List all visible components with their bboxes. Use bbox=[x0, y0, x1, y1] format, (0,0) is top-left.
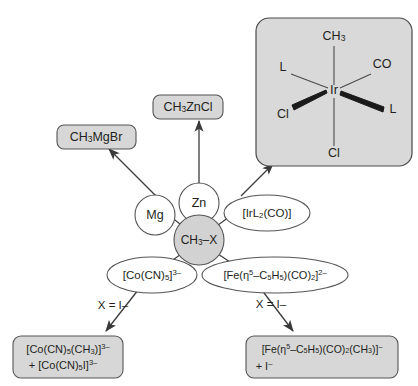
center-node-ch3x: CH3–X bbox=[174, 215, 224, 265]
scheme-canvas: CH3 L CO Ir Cl L Cl CH3ZnCl CH3MgBr Zn M… bbox=[0, 0, 418, 386]
ir-ligand-co-label: CO bbox=[373, 57, 392, 71]
reagent-node-fe: [Fe(η5–C5H5)(CO)2]2– bbox=[202, 257, 348, 293]
reaction-scheme-diagram: CH3 L CO Ir Cl L Cl CH3ZnCl CH3MgBr Zn M… bbox=[0, 0, 418, 386]
edge-label-left: X = I– bbox=[98, 299, 129, 311]
arrow-mg-to-ch3mgbr bbox=[109, 149, 160, 200]
ir-complex-panel: CH3 L CO Ir Cl L Cl bbox=[256, 18, 412, 166]
product-ch3zncl: CH3ZnCl bbox=[153, 95, 223, 119]
zn-label: Zn bbox=[192, 196, 207, 210]
ch3mgbr-label: CH3MgBr bbox=[70, 130, 123, 144]
ch3zncl-label: CH3ZnCl bbox=[163, 100, 212, 114]
product-ch3mgbr: CH3MgBr bbox=[57, 125, 136, 149]
ir-ligand-l-upper-left-label: L bbox=[280, 60, 287, 74]
product-co-box-group: [Co(CN)5(CH3)]3– + [Co(CN)5I]3– bbox=[13, 336, 123, 378]
reagent-node-mg: Mg bbox=[135, 195, 175, 235]
reagent-node-co: [Co(CN)5]3– bbox=[107, 257, 197, 293]
reagent-node-ir: [IrL2(CO)] bbox=[224, 195, 310, 231]
edge-label-right: X = I– bbox=[256, 298, 287, 310]
ir-reagent-label: [IrL2(CO)] bbox=[242, 207, 291, 220]
x-equals-i-right-label: X = I– bbox=[256, 298, 287, 310]
ir-ligand-cl-lower-left-label: Cl bbox=[277, 107, 289, 121]
ir-ligand-l-lower-right-label: L bbox=[390, 102, 397, 116]
co-product-line-2: + [Co(CN)5I]3– bbox=[29, 358, 98, 371]
ir-ligand-cl-bottom-label: Cl bbox=[328, 146, 340, 160]
x-equals-i-left-label: X = I– bbox=[98, 299, 129, 311]
mg-label: Mg bbox=[146, 208, 163, 222]
fe-product-line-1: [Fe(η5–C5H5)(CO)2(CH3)]– bbox=[262, 343, 383, 356]
ir-center-atom-label: Ir bbox=[330, 82, 339, 97]
product-fe-box-group: [Fe(η5–C5H5)(CO)2(CH3)]– + I– bbox=[246, 336, 398, 378]
arrow-ir-to-complex bbox=[241, 164, 273, 196]
